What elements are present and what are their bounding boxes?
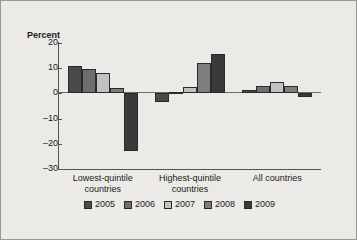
legend-item-2009[interactable]: 2009: [244, 200, 275, 209]
bar-2007-3: [270, 82, 284, 93]
bar-2006-3: [256, 86, 270, 94]
bar-2005-1: [68, 66, 82, 94]
x-axis-group-label: All countries: [234, 173, 321, 184]
x-axis-line: [58, 169, 321, 170]
bar-group: [155, 43, 225, 169]
bar-2007-2: [183, 87, 197, 93]
legend-swatch-icon: [164, 201, 172, 209]
bar-2007-1: [96, 73, 110, 94]
y-axis-tick-label: –20: [28, 139, 58, 148]
plot-area: [59, 43, 321, 169]
bar-2008-3: [284, 86, 298, 94]
bar-2009-3: [298, 93, 312, 97]
legend: 20052006200720082009: [1, 200, 357, 209]
legend-label: 2005: [95, 200, 115, 209]
x-axis-group-label-line: countries: [59, 184, 146, 195]
x-axis-group-label-line: All countries: [234, 173, 321, 184]
legend-label: 2008: [215, 200, 235, 209]
legend-label: 2006: [135, 200, 155, 209]
legend-label: 2009: [255, 200, 275, 209]
x-axis-group-label: Lowest-quintilecountries: [59, 173, 146, 195]
bar-2009-1: [124, 93, 138, 151]
x-axis-group-label: Highest-quintilecountries: [146, 173, 233, 195]
legend-swatch-icon: [124, 201, 132, 209]
x-axis-group-label-line: Lowest-quintile: [59, 173, 146, 184]
legend-swatch-icon: [244, 201, 252, 209]
legend-swatch-icon: [84, 201, 92, 209]
bar-2008-1: [110, 88, 124, 93]
bar-2005-2: [155, 93, 169, 102]
bar-2006-1: [82, 69, 96, 93]
chart-figure: Percent 20100–10–20–30 Lowest-quintileco…: [0, 0, 357, 240]
y-axis-tick-mark: [58, 119, 62, 120]
legend-item-2007[interactable]: 2007: [164, 200, 195, 209]
y-axis-tick-label: 10: [28, 63, 58, 72]
y-axis-tick-label: –10: [28, 114, 58, 123]
bar-2008-2: [197, 63, 211, 94]
bar-2006-2: [169, 92, 183, 94]
y-axis-tick-mark: [58, 43, 62, 44]
bar-group: [68, 43, 138, 169]
legend-item-2006[interactable]: 2006: [124, 200, 155, 209]
y-axis-tick-mark: [58, 68, 62, 69]
bar-group: [242, 43, 312, 169]
y-axis-tick-label: 20: [28, 38, 58, 47]
legend-swatch-icon: [204, 201, 212, 209]
bar-2005-3: [242, 90, 256, 94]
y-axis-tick-mark: [58, 144, 62, 145]
x-axis-group-label-line: Highest-quintile: [146, 173, 233, 184]
x-axis-group-label-line: countries: [146, 184, 233, 195]
bar-2009-2: [211, 54, 225, 93]
y-axis-tick-label: –30: [28, 164, 58, 173]
y-axis-tick-mark: [58, 169, 62, 170]
legend-item-2008[interactable]: 2008: [204, 200, 235, 209]
y-axis-tick-label: 0: [28, 88, 58, 97]
y-axis-tick-mark: [58, 93, 62, 94]
legend-label: 2007: [175, 200, 195, 209]
legend-item-2005[interactable]: 2005: [84, 200, 115, 209]
